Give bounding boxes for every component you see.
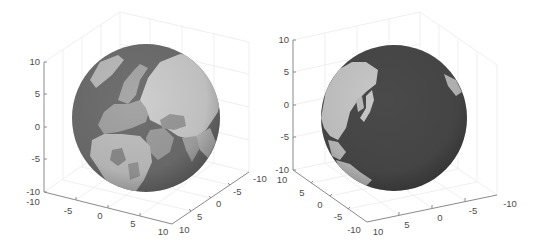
left-z-tick: 5 — [35, 88, 40, 99]
left-x-tick: 10 — [158, 226, 169, 237]
right-y-tick: -5 — [469, 205, 477, 216]
right-y-axis-line — [367, 195, 497, 222]
left-y-tick-labels: 10 5 0 -5 -10 — [179, 173, 267, 235]
right-y-tick: 10 — [373, 226, 384, 237]
left-y-tick: 5 — [197, 211, 202, 222]
left-globe — [72, 44, 222, 194]
right-x-tick: -10 — [347, 224, 361, 235]
right-y-tick: -10 — [503, 198, 517, 209]
left-y-tick: 10 — [179, 224, 190, 235]
right-z-tick-labels: 10 5 0 -5 -10 — [275, 34, 289, 175]
right-x-tick-labels: 10 5 0 -5 -10 — [277, 174, 361, 235]
left-x-tick: -10 — [26, 196, 40, 207]
left-x-tick-labels: -10 -5 0 5 10 — [26, 196, 168, 237]
right-y-tick: 5 — [404, 219, 409, 230]
left-y-tick: -5 — [233, 186, 241, 197]
right-x-tick: 0 — [317, 199, 322, 210]
right-z-tick: 10 — [278, 34, 289, 45]
left-x-tick: 5 — [130, 218, 135, 229]
right-x-tick: -5 — [334, 211, 342, 222]
right-y-tick-labels: 10 5 0 -5 -10 — [373, 198, 517, 237]
left-z-tick: -5 — [32, 153, 40, 164]
figure: 10 5 0 -5 -10 -10 -5 0 5 10 10 5 0 -5 -1… — [0, 0, 537, 247]
left-x-tick: -5 — [64, 205, 72, 216]
left-z-tick: 10 — [29, 56, 40, 67]
right-z-tick: 0 — [284, 99, 289, 110]
left-z-tick: 0 — [35, 121, 40, 132]
right-x-tick: 5 — [299, 187, 304, 198]
right-y-tick: 0 — [437, 212, 442, 223]
left-x-tick: 0 — [97, 210, 102, 221]
right-z-tick: 5 — [284, 66, 289, 77]
right-x-tick: 10 — [277, 174, 288, 185]
left-y-tick: 0 — [216, 198, 221, 209]
right-globe — [321, 45, 467, 191]
left-y-tick: -10 — [253, 173, 267, 184]
right-z-tick: -5 — [281, 131, 289, 142]
left-z-tick-labels: 10 5 0 -5 -10 — [26, 56, 40, 197]
